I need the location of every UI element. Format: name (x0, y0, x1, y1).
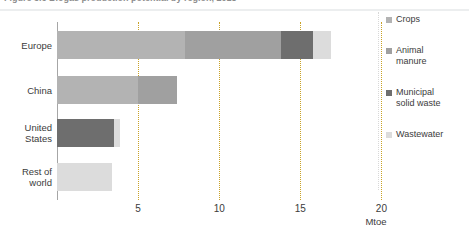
legend-item-crops[interactable]: Crops (386, 14, 420, 25)
legend-label-line: Animal (396, 45, 427, 56)
legend-label-line: manure (396, 56, 427, 67)
category-label-line: world (0, 177, 52, 188)
bar-segment-wastewater[interactable] (114, 119, 120, 147)
x-tick-15: 15 (280, 203, 320, 214)
legend-label-line: Crops (396, 14, 420, 25)
category-label-rest-of-world: Rest ofworld (0, 166, 52, 188)
bar-segment-wastewater[interactable] (57, 163, 112, 191)
x-axis-unit-label: Mtoe (365, 216, 386, 227)
legend-item-wastewater[interactable]: Wastewater (386, 129, 443, 140)
category-label-europe: Europe (0, 40, 52, 51)
legend-label: Wastewater (396, 129, 443, 140)
legend-item-animal-manure[interactable]: Animalmanure (386, 45, 427, 67)
bar-segment-animal-manure[interactable] (185, 31, 281, 59)
bar-rest-of-world[interactable] (57, 163, 112, 191)
category-label-line: States (0, 133, 52, 144)
bar-europe[interactable] (57, 31, 331, 59)
legend-label: Municipalsolid waste (396, 87, 441, 109)
legend-label-line: solid waste (396, 98, 441, 109)
legend-label-line: Municipal (396, 87, 441, 98)
category-label-line: Rest of (0, 166, 52, 177)
bar-united-states[interactable] (57, 119, 120, 147)
legend-label: Animalmanure (396, 45, 427, 67)
bar-segment-wastewater[interactable] (313, 31, 331, 59)
category-label-united-states: UnitedStates (0, 122, 52, 144)
category-label-line: Europe (0, 40, 52, 51)
chart-figure: Figure 3.6 Biogas production potential b… (0, 0, 469, 237)
legend-swatch-icon (386, 48, 392, 54)
x-tick-5: 5 (118, 203, 158, 214)
legend-swatch-icon (386, 90, 392, 96)
figure-caption-strip: Figure 3.6 Biogas production potential b… (0, 0, 469, 11)
legend-item-municipal-solid-waste[interactable]: Municipalsolid waste (386, 87, 441, 109)
gridline-20 (381, 22, 382, 200)
category-label-line: United (0, 122, 52, 133)
x-tick-20: 20 (361, 203, 401, 214)
legend-label-line: Wastewater (396, 129, 443, 140)
category-label-line: China (0, 85, 52, 96)
x-tick-10: 10 (199, 203, 239, 214)
legend-swatch-icon (386, 132, 392, 138)
bar-segment-animal-manure[interactable] (138, 76, 177, 104)
category-label-china: China (0, 85, 52, 96)
legend-swatch-icon (386, 17, 392, 23)
bar-segment-municipal-solid-waste[interactable] (57, 119, 114, 147)
legend-divider (378, 12, 379, 190)
bar-segment-crops[interactable] (57, 76, 138, 104)
bar-segment-municipal-solid-waste[interactable] (281, 31, 313, 59)
bar-china[interactable] (57, 76, 177, 104)
bar-segment-crops[interactable] (57, 31, 185, 59)
figure-caption: Figure 3.6 Biogas production potential b… (4, 0, 237, 3)
legend-label: Crops (396, 14, 420, 25)
